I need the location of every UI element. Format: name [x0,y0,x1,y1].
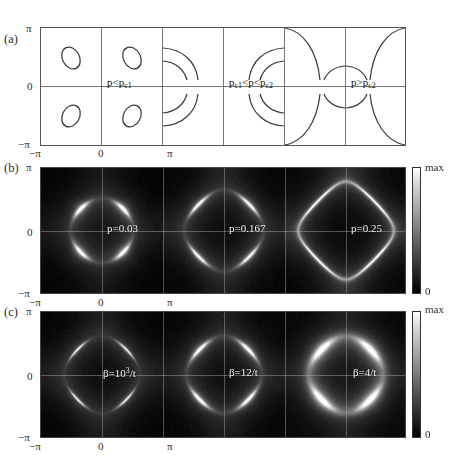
figure-root: (a) π 0 −π −π 0 π [0,0,467,464]
panel-c-ytick-pi: π [26,306,32,317]
panel-b-colorbar-max-label: max [425,161,444,173]
panel-c-ytick-negpi: −π [18,432,30,443]
panel-b-label-2: p=0.167 [229,222,265,234]
panel-b-ytick-negpi: −π [18,288,30,299]
panel-c-label-1: β=103/t [103,366,136,379]
panel-b-ytick-pi: π [26,162,32,173]
panel-a-xtick-pi: π [167,148,173,159]
panel-a-label-1: p<pc1 [107,76,132,90]
panel-a-xtick-negpi: −π [29,148,41,159]
panel-b-colorbar-min-label: 0 [425,285,431,297]
panel-c-colorbar-max-label: max [425,303,444,315]
panel-a-xtick-zero: 0 [98,148,104,159]
panel-a-ytick-zero: 0 [27,81,33,92]
panel-c-xtick-pi: π [167,441,173,452]
panel-a-label-3: p>pc2 [351,76,376,90]
panel-b-xtick-pi: π [167,297,173,308]
panel-c-ytick-zero: 0 [27,371,33,382]
panel-c-label-3: β=4/t [353,366,376,378]
panel-a-ytick-pi: π [26,23,32,34]
panel-b-ytick-zero: 0 [27,227,33,238]
panel-a-ytick-negpi: −π [18,139,30,150]
panel-a-tag: (a) [4,32,18,47]
panel-c-tag: (c) [4,305,18,320]
panel-c-gridline-h [41,375,405,376]
panel-c-xtick-zero: 0 [98,441,104,452]
panel-a-contour-plot: p<pc1 pc1<p<pc2 p>pc2 [40,27,406,146]
panel-a-label-2: pc1<p<pc2 [229,76,273,90]
panel-c-intensity-map: β=103/t β=12/t β=4/t [40,311,406,438]
panel-b-label-3: p=0.25 [351,222,382,234]
panel-b-xtick-zero: 0 [98,297,104,308]
panel-b-colorbar [412,167,421,294]
panel-c-xtick-negpi: −π [29,441,41,452]
panel-b-tag: (b) [4,161,19,176]
panel-c-colorbar [412,311,421,438]
panel-c-label-2: β=12/t [229,366,258,378]
panel-b-label-1: p=0.03 [107,222,138,234]
panel-b-intensity-map: p=0.03 p=0.167 p=0.25 [40,167,406,294]
panel-c-colorbar-min-label: 0 [425,428,431,440]
